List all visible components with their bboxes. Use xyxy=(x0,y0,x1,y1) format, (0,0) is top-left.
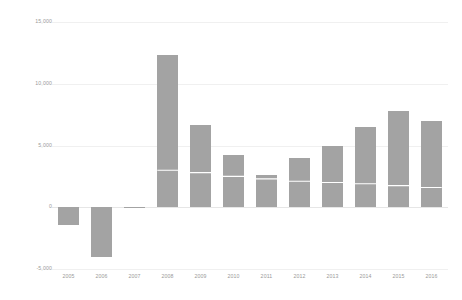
bar-chart: -5,00005,00010,00015,000 200520062007200… xyxy=(0,0,462,300)
x-tick-label: 2006 xyxy=(85,274,118,279)
x-tick-label: 2014 xyxy=(349,274,382,279)
y-tick-label: 5,000 xyxy=(6,143,52,148)
y-axis: -5,00005,00010,00015,000 xyxy=(0,0,52,300)
x-axis: 2005200620072008200920102011201220132014… xyxy=(52,274,448,288)
bar xyxy=(190,125,210,208)
bar xyxy=(157,55,177,207)
x-tick-label: 2009 xyxy=(184,274,217,279)
bar xyxy=(322,146,342,208)
bar xyxy=(289,158,309,207)
x-tick-label: 2010 xyxy=(217,274,250,279)
bar xyxy=(91,207,111,256)
x-tick-label: 2011 xyxy=(250,274,283,279)
y-tick-label: 15,000 xyxy=(6,19,52,24)
x-tick-label: 2016 xyxy=(415,274,448,279)
bar xyxy=(355,127,375,207)
gridline-10000 xyxy=(52,84,448,85)
bar xyxy=(124,207,144,208)
gridline-15000 xyxy=(52,22,448,23)
y-tick-label: -5,000 xyxy=(6,266,52,271)
bar xyxy=(421,121,441,207)
bar xyxy=(223,155,243,207)
bar xyxy=(256,175,276,207)
x-tick-label: 2007 xyxy=(118,274,151,279)
x-tick-label: 2015 xyxy=(382,274,415,279)
y-tick-label: 0 xyxy=(6,204,52,209)
gridline--5000 xyxy=(52,269,448,270)
x-tick-label: 2005 xyxy=(52,274,85,279)
x-tick-label: 2012 xyxy=(283,274,316,279)
bar xyxy=(58,207,78,224)
y-tick-label: 10,000 xyxy=(6,81,52,86)
x-tick-label: 2013 xyxy=(316,274,349,279)
plot-area xyxy=(52,22,448,269)
x-tick-label: 2008 xyxy=(151,274,184,279)
bar xyxy=(388,111,408,207)
